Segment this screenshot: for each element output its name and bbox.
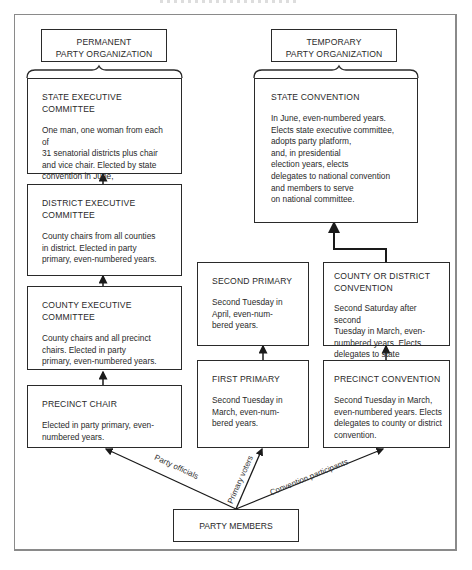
arrow-members-to-precinct-chair — [106, 449, 236, 509]
state-convention-box: STATE CONVENTION In June, even-numbered … — [254, 78, 418, 223]
brace-permanent — [27, 66, 182, 78]
box-body: Second Tuesday in March, even-numbered y… — [334, 395, 443, 441]
box-title: STATE CONVENTION — [271, 91, 405, 103]
precinct-convention-box: PRECINCT CONVENTION Second Tuesday in Ma… — [323, 360, 450, 448]
box-title: COUNTY OR DISTRICT CONVENTION — [334, 270, 443, 294]
county-district-convention-box: COUNTY OR DISTRICT CONVENTION Second Sat… — [323, 262, 450, 346]
first-primary-box: FIRST PRIMARY Second Tuesday in March, e… — [197, 360, 309, 448]
box-body: County chairs from all counties in distr… — [42, 231, 169, 266]
brace-temporary — [254, 66, 418, 78]
box-body: Second Tuesday in April, even-num- bered… — [212, 297, 296, 332]
box-title: COUNTY EXECUTIVE COMMITTEE — [42, 299, 169, 323]
temporary-organization-header: TEMPORARY PARTY ORGANIZATION — [271, 29, 397, 62]
box-title: PRECINCT CHAIR — [42, 398, 169, 410]
box-body: Elected in party primary, even- numbered… — [42, 420, 169, 443]
box-title: STATE EXECUTIVE COMMITTEE — [42, 91, 169, 115]
arrow-county-to-state-convention — [334, 223, 386, 262]
box-title: FIRST PRIMARY — [212, 373, 296, 385]
party-members-label: PARTY MEMBERS — [199, 521, 273, 531]
second-primary-box: SECOND PRIMARY Second Tuesday in April, … — [197, 262, 309, 346]
permanent-header-text: PERMANENT PARTY ORGANIZATION — [56, 37, 153, 59]
precinct-chair-box: PRECINCT CHAIR Elected in party primary,… — [27, 385, 182, 448]
box-body: In June, even-numbered years. Elects sta… — [271, 113, 405, 206]
district-executive-committee-box: DISTRICT EXECUTIVE COMMITTEE County chai… — [27, 184, 182, 276]
county-executive-committee-box: COUNTY EXECUTIVE COMMITTEE County chairs… — [27, 286, 182, 370]
box-body: Second Tuesday in March, even-num- bered… — [212, 395, 296, 430]
box-title: DISTRICT EXECUTIVE COMMITTEE — [42, 197, 169, 221]
box-title: SECOND PRIMARY — [212, 275, 296, 287]
party-members-box: PARTY MEMBERS — [173, 509, 299, 542]
box-title: PRECINCT CONVENTION — [334, 373, 443, 385]
box-body: County chairs and all precinct chairs. E… — [42, 333, 169, 368]
permanent-organization-header: PERMANENT PARTY ORGANIZATION — [41, 29, 167, 62]
state-executive-committee-box: STATE EXECUTIVE COMMITTEE One man, one w… — [27, 78, 182, 174]
temporary-header-text: TEMPORARY PARTY ORGANIZATION — [286, 37, 383, 59]
